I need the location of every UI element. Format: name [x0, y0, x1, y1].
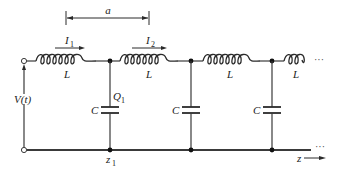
svg-text:1: 1 [121, 96, 125, 105]
svg-text:L: L [63, 68, 70, 80]
svg-text:z: z [296, 152, 302, 164]
svg-text:L: L [292, 68, 299, 80]
current-i2: I 2 [132, 34, 167, 50]
continuation-top: ··· [314, 54, 324, 65]
svg-text:Q: Q [113, 90, 121, 102]
capacitor-3: C [253, 61, 281, 150]
input-terminal-top [21, 58, 26, 63]
svg-text:C: C [253, 104, 261, 116]
svg-text:C: C [172, 104, 180, 116]
svg-text:z: z [105, 153, 111, 165]
current-i1: I 1 [55, 34, 85, 50]
circuit-diagram: a I 1 I 2 L L L L ··· [0, 0, 338, 175]
inductor-3: L [203, 54, 260, 80]
voltage-source-label: V(t) [14, 64, 31, 147]
position-z1: z 1 [105, 153, 116, 168]
svg-text:L: L [226, 68, 233, 80]
dimension-a: a [66, 4, 149, 25]
continuation-bottom: ··· [315, 141, 325, 152]
inductor-4: L ··· [284, 54, 324, 80]
svg-text:1: 1 [112, 159, 116, 168]
ground-wire: ··· [27, 141, 325, 152]
capacitor-1: C Q 1 [91, 61, 125, 150]
z-axis-arrow: z [296, 152, 326, 164]
input-terminal-bottom [21, 147, 26, 152]
dimension-label: a [105, 4, 111, 16]
inductor-1: L [36, 54, 96, 80]
inductor-2: L [120, 54, 178, 80]
svg-text:V(t): V(t) [14, 93, 31, 106]
capacitor-2: C [172, 61, 200, 150]
svg-text:C: C [91, 104, 99, 116]
svg-text:L: L [145, 68, 152, 80]
